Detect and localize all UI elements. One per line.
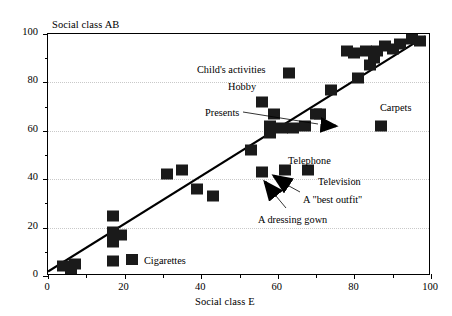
tick-x-minor-30 [163, 274, 164, 278]
data-point [176, 164, 188, 175]
tick-y-60 [43, 131, 48, 132]
tick-x-minor-50 [240, 274, 241, 278]
scatter-chart: Social class AB Social class E 020406080… [0, 0, 452, 316]
ticklabel-y-40: 40 [8, 171, 38, 182]
data-point [107, 256, 119, 267]
ticklabel-y-80: 80 [8, 74, 38, 85]
tick-y-minor-10 [45, 252, 49, 253]
tick-x-60 [278, 274, 279, 279]
data-point [245, 145, 257, 156]
ticklabel-y-0: 0 [8, 268, 38, 279]
data-point [283, 67, 295, 78]
data-point [325, 84, 337, 95]
data-point [352, 72, 364, 83]
annotation-label: Telephone [288, 156, 331, 167]
tick-x-minor-10 [86, 274, 87, 278]
data-point [69, 258, 81, 269]
ticklabel-x-100: 100 [415, 281, 445, 292]
gridline-y-60 [48, 131, 429, 133]
data-point [264, 128, 276, 139]
tick-x-minor-90 [393, 274, 394, 278]
data-point [107, 210, 119, 221]
data-point [115, 229, 127, 240]
data-point [314, 108, 326, 119]
data-point [207, 191, 219, 202]
gridline-y-40 [48, 179, 429, 181]
tick-x-minor-70 [316, 274, 317, 278]
annotation-label: A dressing gown [258, 215, 327, 226]
tick-x-40 [201, 274, 202, 279]
data-point [394, 38, 406, 49]
ticklabel-x-80: 80 [338, 281, 368, 292]
annotation-label: Presents [205, 108, 239, 119]
data-point [161, 169, 173, 180]
tick-y-minor-30 [45, 203, 49, 204]
legend-swatch [126, 254, 138, 265]
tick-y-20 [43, 228, 48, 229]
annotation-label: A "best outfit" [303, 195, 362, 206]
data-point [414, 36, 426, 47]
tick-y-minor-90 [45, 58, 49, 59]
tick-y-80 [43, 82, 48, 83]
tick-x-100 [431, 274, 432, 279]
data-point [276, 123, 288, 134]
ticklabel-x-40: 40 [185, 281, 215, 292]
data-point [191, 183, 203, 194]
data-point [299, 120, 311, 131]
ticklabel-x-20: 20 [109, 281, 139, 292]
tick-y-minor-50 [45, 155, 49, 156]
annotation-label: Carpets [380, 103, 411, 114]
tick-y-minor-70 [45, 107, 49, 108]
data-point [287, 123, 299, 134]
y-axis-title: Social class AB [52, 19, 119, 30]
ticklabel-y-60: 60 [8, 123, 38, 134]
annotation-label: Cigarettes [144, 256, 186, 267]
x-axis-title: Social class E [195, 296, 255, 307]
ticklabel-x-0: 0 [32, 281, 62, 292]
gridline-y-20 [48, 228, 429, 230]
data-point [268, 108, 280, 119]
tick-x-20 [125, 274, 126, 279]
ticklabel-y-100: 100 [8, 26, 38, 37]
annotation-label: Television [318, 177, 361, 188]
data-point [256, 166, 268, 177]
data-point [375, 120, 387, 131]
tick-x-80 [354, 274, 355, 279]
data-point [256, 96, 268, 107]
annotation-label: Hobby [228, 82, 256, 93]
data-point [348, 48, 360, 59]
tick-y-100 [43, 34, 48, 35]
tick-x-0 [48, 274, 49, 279]
ticklabel-x-60: 60 [262, 281, 292, 292]
annotation-label: Child's activities [197, 65, 266, 76]
ticklabel-y-20: 20 [8, 220, 38, 231]
tick-y-40 [43, 179, 48, 180]
